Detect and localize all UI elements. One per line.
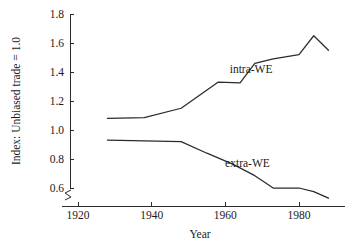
y-axis: 0.60.81.01.21.41.61.8 [50, 8, 74, 200]
y-tick-label: 1.8 [50, 8, 65, 20]
series-label-intra-we: intra-WE [230, 63, 273, 75]
y-tick-label: 0.8 [50, 153, 65, 165]
x-tick-label: 1960 [214, 209, 237, 221]
y-tick-label: 1.2 [50, 95, 65, 107]
x-axis-title: Year [189, 228, 210, 240]
x-tick-label: 1940 [140, 209, 163, 221]
series-line-intra-we [107, 36, 328, 119]
series-labels-group: intra-WEextra-WE [225, 63, 272, 169]
y-tick-label: 1.0 [50, 124, 65, 136]
chart-container: 0.60.81.01.21.41.61.8 1920194019601980 i… [0, 0, 355, 243]
y-axis-break-icon [65, 190, 71, 200]
x-tick-label: 1920 [67, 209, 90, 221]
x-axis: 1920194019601980 [62, 202, 345, 221]
y-tick-label: 0.6 [50, 182, 65, 194]
x-tick-label: 1980 [288, 209, 311, 221]
series-label-extra-we: extra-WE [225, 157, 270, 169]
data-series-group [107, 36, 328, 198]
series-line-extra-we [107, 140, 328, 198]
y-tick-label: 1.4 [50, 66, 65, 78]
y-axis-title: Index: Unbiased trade = 1.0 [10, 37, 22, 165]
line-chart: 0.60.81.01.21.41.61.8 1920194019601980 i… [0, 0, 355, 243]
y-tick-label: 1.6 [50, 37, 65, 49]
